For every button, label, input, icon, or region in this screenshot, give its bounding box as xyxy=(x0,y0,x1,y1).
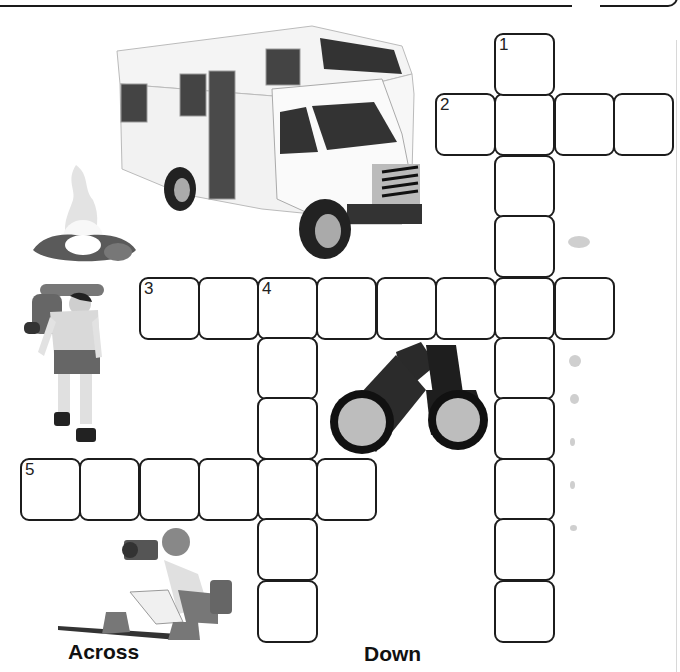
crossword-cell[interactable] xyxy=(494,580,555,643)
crossword-cell[interactable] xyxy=(494,458,555,521)
crossword-cell[interactable] xyxy=(257,458,318,521)
across-heading: Across xyxy=(68,640,139,664)
crossword-cell[interactable] xyxy=(494,277,555,340)
crossword-cell[interactable] xyxy=(257,397,318,460)
clue-number: 5 xyxy=(25,461,34,478)
crossword-cell[interactable]: 2 xyxy=(435,93,496,156)
speck xyxy=(568,236,590,248)
clue-number: 3 xyxy=(144,280,153,297)
crossword-cell[interactable] xyxy=(139,458,200,521)
crossword-cell[interactable] xyxy=(435,277,496,340)
binoculars-illustration xyxy=(326,340,490,456)
motorhome-illustration xyxy=(112,24,422,260)
top-frame-gap xyxy=(572,0,600,8)
speck xyxy=(570,394,579,404)
crossword-cell[interactable] xyxy=(554,93,615,156)
speck xyxy=(570,481,575,489)
crossword-cell[interactable] xyxy=(376,277,437,340)
hiker-illustration xyxy=(20,282,112,450)
crossword-cell[interactable] xyxy=(257,337,318,400)
crossword-cell[interactable] xyxy=(494,397,555,460)
crossword-cell[interactable] xyxy=(494,155,555,218)
speck xyxy=(569,355,581,367)
crossword-cell[interactable] xyxy=(79,458,140,521)
crossword-cell[interactable] xyxy=(198,458,259,521)
clue-number: 1 xyxy=(499,36,508,53)
photographer-illustration xyxy=(58,522,240,646)
crossword-cell[interactable] xyxy=(494,518,555,581)
crossword-cell[interactable]: 1 xyxy=(494,33,555,96)
crossword-cell[interactable] xyxy=(554,277,615,340)
crossword-cell[interactable] xyxy=(257,518,318,581)
speck xyxy=(570,525,577,531)
crossword-cell[interactable] xyxy=(494,215,555,278)
right-edge-rule xyxy=(676,40,677,672)
crossword-cell[interactable] xyxy=(198,277,259,340)
crossword-cell[interactable] xyxy=(316,458,377,521)
crossword-cell[interactable]: 3 xyxy=(139,277,200,340)
speck xyxy=(570,438,575,446)
crossword-cell[interactable] xyxy=(613,93,674,156)
clue-number: 2 xyxy=(440,96,449,113)
crossword-cell[interactable] xyxy=(494,337,555,400)
clue-number: 4 xyxy=(262,280,271,297)
crossword-cell[interactable] xyxy=(494,93,555,156)
down-heading: Down xyxy=(364,642,421,666)
crossword-cell[interactable] xyxy=(316,277,377,340)
crossword-cell[interactable] xyxy=(257,580,318,643)
crossword-cell[interactable]: 4 xyxy=(257,277,318,340)
campfire-illustration xyxy=(28,160,140,274)
crossword-cell[interactable]: 5 xyxy=(20,458,81,521)
